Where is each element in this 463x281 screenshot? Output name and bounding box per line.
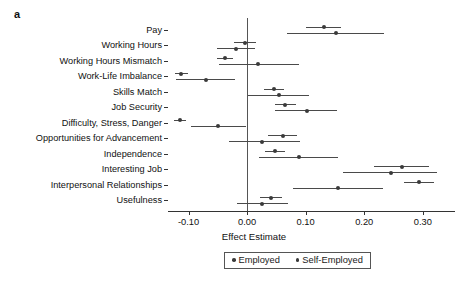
data-point-self-employed: [389, 171, 393, 175]
y-axis-tick: [164, 169, 168, 170]
data-point-self-employed: [204, 78, 208, 82]
legend-item-self-employed: Self-Employed: [296, 255, 363, 265]
data-point-employed: [273, 149, 277, 153]
legend-marker-icon: [232, 258, 236, 262]
y-axis-category-label: Independence: [104, 149, 162, 159]
y-axis-tick: [164, 92, 168, 93]
y-axis-tick: [164, 200, 168, 201]
y-axis-tick: [164, 154, 168, 155]
x-axis-tick: [364, 211, 365, 215]
legend-label: Employed: [239, 255, 280, 265]
forest-plot: Effect Estimate -0.100.000.100.200.30Pay…: [0, 0, 463, 281]
y-axis-tick: [164, 107, 168, 108]
y-axis-category-label: Interpersonal Relationships: [51, 180, 162, 190]
y-axis-tick: [164, 76, 168, 77]
y-axis-category-label: Skills Match: [113, 87, 162, 97]
y-axis-tick: [164, 45, 168, 46]
legend: Employed Self-Employed: [224, 252, 371, 269]
x-axis-tick: [423, 211, 424, 215]
x-axis-tick: [247, 211, 248, 215]
y-axis-tick: [164, 138, 168, 139]
data-point-employed: [322, 25, 326, 29]
x-axis-tick: [306, 211, 307, 215]
y-axis-category-label: Difficulty, Stress, Danger: [62, 118, 162, 128]
y-axis-tick: [164, 185, 168, 186]
y-axis-category-label: Job Security: [111, 102, 162, 112]
y-axis-category-label: Interesting Job: [102, 164, 162, 174]
x-axis-tick-label: -0.10: [178, 217, 199, 227]
x-axis-tick-label: 0.00: [238, 217, 256, 227]
y-axis-category-label: Usefulness: [117, 195, 162, 205]
y-axis-category-label: Working Hours: [101, 40, 162, 50]
y-axis-tick: [164, 30, 168, 31]
confidence-interval-self-employed: [229, 141, 300, 142]
legend-marker-icon: [296, 258, 300, 262]
y-axis-tick: [164, 61, 168, 62]
legend-item-employed: Employed: [232, 255, 280, 265]
x-axis-tick: [189, 211, 190, 215]
data-point-employed: [281, 134, 285, 138]
data-point-employed: [400, 165, 404, 169]
y-axis-category-label: Opportunities for Advancement: [36, 133, 162, 143]
x-axis-title: Effect Estimate: [0, 231, 463, 242]
y-axis-category-label: Pay: [146, 25, 162, 35]
legend-label: Self-Employed: [302, 255, 362, 265]
data-point-employed: [243, 41, 247, 45]
y-axis-category-label: Work-Life Imbalance: [78, 71, 162, 81]
data-point-employed: [269, 196, 273, 200]
x-axis-tick-label: 0.20: [355, 217, 373, 227]
data-point-self-employed: [234, 47, 238, 51]
x-axis-line: [168, 211, 455, 212]
x-axis-tick-label: 0.10: [297, 217, 315, 227]
y-axis-tick: [164, 123, 168, 124]
zero-reference-line: [247, 18, 248, 211]
x-axis-tick-label: 0.30: [414, 217, 432, 227]
data-point-employed: [283, 103, 287, 107]
data-point-employed: [417, 180, 421, 184]
y-axis-category-label: Working Hours Mismatch: [60, 56, 162, 66]
